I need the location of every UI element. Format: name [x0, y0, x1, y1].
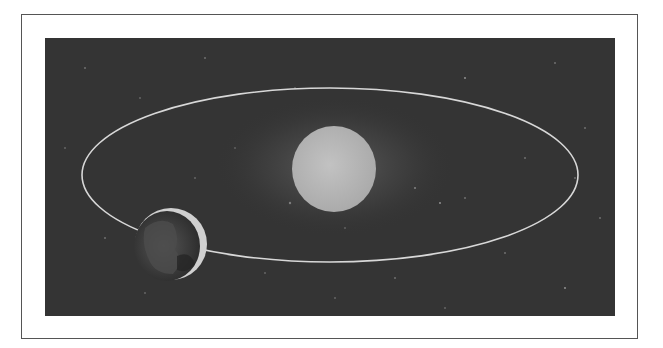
orbit-diagram	[45, 38, 615, 316]
earth	[134, 208, 207, 281]
space-panel	[45, 38, 615, 316]
sun	[292, 126, 376, 212]
